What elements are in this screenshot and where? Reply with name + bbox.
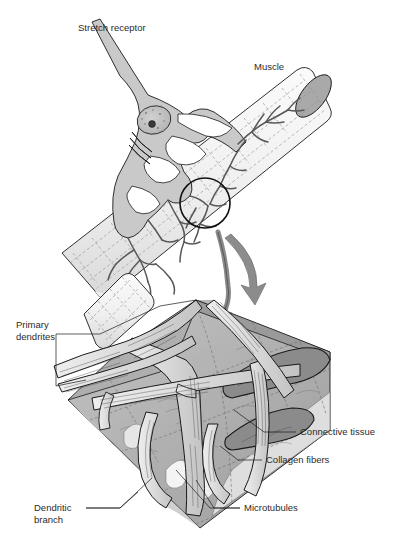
label-microtubules: Microtubules bbox=[244, 502, 298, 513]
label-dendritic-branch-line1: Dendritic bbox=[34, 502, 72, 513]
label-dendritic-branch-line2: branch bbox=[34, 514, 63, 525]
label-muscle: Muscle bbox=[254, 61, 284, 72]
figure-root: Stretch receptor Muscle bbox=[0, 0, 396, 548]
label-collagen-fibers: Collagen fibers bbox=[266, 454, 330, 465]
label-primary-dendrites-line2: dendrites bbox=[16, 331, 55, 342]
label-connective-tissue: Connective tissue bbox=[300, 426, 375, 437]
label-stretch-receptor: Stretch receptor bbox=[78, 22, 146, 33]
biology-diagram-svg: Stretch receptor Muscle bbox=[0, 0, 396, 548]
label-primary-dendrites-line1: Primary bbox=[16, 319, 49, 330]
nucleolus bbox=[149, 121, 156, 128]
